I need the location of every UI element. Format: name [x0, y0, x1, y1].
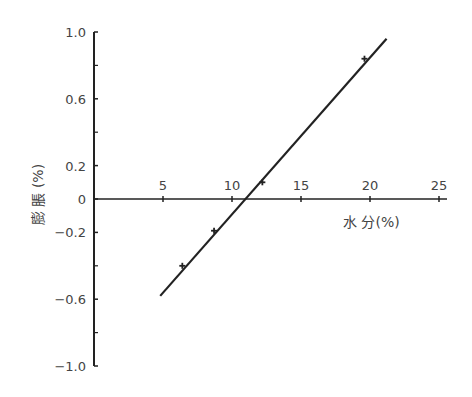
- x-tick-label: 25: [431, 178, 448, 193]
- x-tick-label: 10: [224, 178, 241, 193]
- y-tick-label: −0.6: [54, 292, 86, 307]
- y-axis: 1.00.60.20−0.2−0.6−1.0: [54, 25, 98, 374]
- chart: 1.00.60.20−0.2−0.6−1.0 510152025 水 分(%) …: [0, 0, 472, 397]
- y-tick-label: 0: [78, 192, 86, 207]
- x-axis-title: 水 分(%): [343, 214, 400, 230]
- x-tick-label: 20: [362, 178, 379, 193]
- data-series: [160, 39, 386, 296]
- x-axis: 510152025: [94, 178, 447, 202]
- y-axis-title: 膨 脹 (%): [30, 164, 46, 225]
- y-tick-label: 0.6: [65, 92, 86, 107]
- x-tick-label: 5: [159, 178, 167, 193]
- y-tick-label: 0.2: [65, 159, 86, 174]
- fit-line: [160, 39, 386, 296]
- x-tick-label: 15: [293, 178, 310, 193]
- y-tick-label: −0.2: [54, 225, 86, 240]
- y-tick-label: −1.0: [54, 359, 86, 374]
- y-tick-label: 1.0: [65, 25, 86, 40]
